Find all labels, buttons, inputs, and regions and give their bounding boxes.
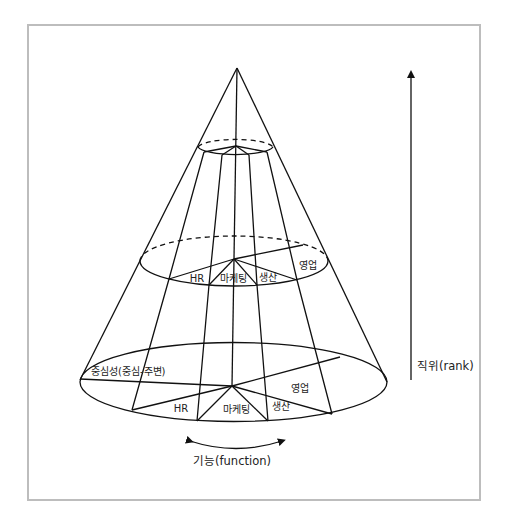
function-arrow [190, 441, 282, 449]
center-axis [232, 68, 237, 386]
middle-label-marketing: 마케팅 [220, 273, 247, 284]
centrality-label: 중심성(중심-주변) [91, 366, 166, 377]
bottom-label-marketing: 마케팅 [223, 404, 250, 415]
function-label: 기능(function) [193, 454, 271, 468]
middle-label-hr: HR [190, 273, 205, 284]
rank-label: 직위(rank) [417, 359, 474, 373]
cone-outline [80, 68, 387, 382]
bottom-label-hr: HR [174, 403, 189, 414]
cone-left-edge [80, 68, 237, 380]
cone-diagram: HR 마케팅 생산 영업 HR 마케팅 생산 영업 중심성(중심-주변) 직위(… [0, 0, 508, 526]
bottom-label-sales: 영업 [291, 382, 309, 394]
middle-label-production: 생산 [259, 272, 277, 283]
bottom-label-production: 생산 [272, 401, 290, 412]
middle-label-sales: 영업 [299, 259, 317, 271]
